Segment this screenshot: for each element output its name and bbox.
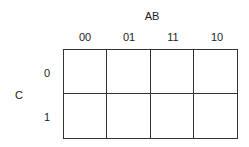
kmap-grid xyxy=(63,49,238,139)
row-header-1: 1 xyxy=(42,111,52,123)
row-header-0: 0 xyxy=(42,67,52,79)
cell-c0-ab11 xyxy=(151,50,194,94)
cell-c1-ab10 xyxy=(194,94,237,138)
cell-c1-ab00 xyxy=(64,94,107,138)
col-variable-label: AB xyxy=(140,10,164,22)
col-header-01: 01 xyxy=(119,31,139,43)
row-variable-label: C xyxy=(12,89,26,101)
cell-c1-ab01 xyxy=(107,94,150,138)
cell-c1-ab11 xyxy=(151,94,194,138)
col-header-11: 11 xyxy=(163,31,183,43)
col-header-10: 10 xyxy=(207,31,227,43)
cell-c0-ab00 xyxy=(64,50,107,94)
col-header-00: 00 xyxy=(75,31,95,43)
cell-c0-ab10 xyxy=(194,50,237,94)
cell-c0-ab01 xyxy=(107,50,150,94)
